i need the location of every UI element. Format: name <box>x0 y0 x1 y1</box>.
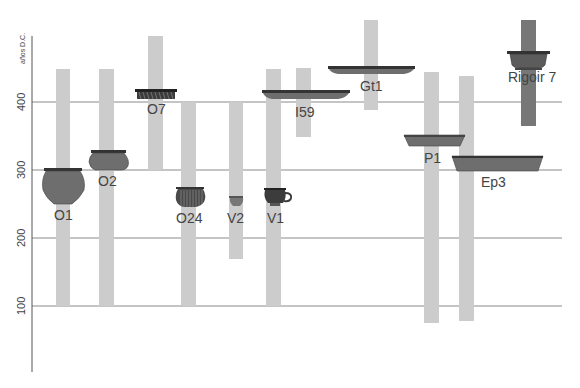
y-axis: años D.C. 400 300 200 100 <box>15 33 32 372</box>
label-p1: P1 <box>424 150 441 166</box>
label-v1: V1 <box>267 210 284 226</box>
vessel-o7-icon <box>135 89 177 99</box>
vessel-gt1-icon <box>328 66 415 74</box>
label-gt1: Gt1 <box>360 78 383 94</box>
vessel-i59-icon <box>262 90 350 99</box>
y-axis-label: años D.C. <box>19 33 26 64</box>
vessel-rigoir7-icon <box>507 51 550 70</box>
label-v2: V2 <box>227 210 244 226</box>
label-rigoir7: Rigoir 7 <box>508 69 556 85</box>
vessel-o2-icon <box>89 150 129 170</box>
y-tick-400: 400 <box>15 93 27 111</box>
label-o24: O24 <box>176 210 203 226</box>
vessel-o1-icon <box>42 168 84 204</box>
vessel-ep3-icon <box>452 156 543 171</box>
range-bar-v2 <box>229 102 243 259</box>
chronology-chart: O1 O2 O7 O24 V2 V1 I59 Gt1 P1 Ep3 Rigoir… <box>0 0 580 388</box>
vessel-o24-icon <box>176 187 206 207</box>
range-bar-i59 <box>296 68 311 137</box>
range-bars <box>56 20 536 323</box>
y-tick-300: 300 <box>15 161 27 179</box>
vessel-p1-icon <box>404 135 465 146</box>
y-tick-100: 100 <box>15 297 27 315</box>
range-bar-gt1 <box>364 20 378 110</box>
label-o2: O2 <box>98 173 117 189</box>
label-o7: O7 <box>147 101 166 117</box>
range-bar-ep3 <box>459 76 474 321</box>
y-tick-200: 200 <box>15 229 27 247</box>
range-bar-p1 <box>424 72 439 323</box>
label-o1: O1 <box>54 207 73 223</box>
label-ep3: Ep3 <box>481 174 506 190</box>
range-bar-v1 <box>266 69 281 306</box>
label-i59: I59 <box>295 104 315 120</box>
